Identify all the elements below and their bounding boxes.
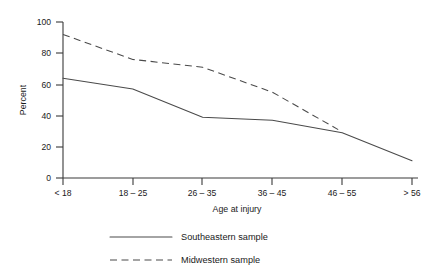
y-tick-label-0: 0 — [46, 173, 51, 183]
legend-label-midwestern: Midwestern sample — [181, 255, 260, 265]
x-tick-label-0: < 18 — [55, 188, 72, 198]
y-tick-label-20: 20 — [41, 142, 51, 152]
x-tick-label-1: 18 – 25 — [119, 188, 148, 198]
series-line-southeastern — [63, 78, 412, 161]
y-axis-title: Percent — [18, 84, 28, 115]
x-tick-label-4: 46 – 55 — [328, 188, 357, 198]
y-tick-label-60: 60 — [41, 80, 51, 90]
series-line-midwestern — [63, 35, 338, 130]
y-tick-label-80: 80 — [41, 48, 51, 58]
x-tick-label-5: > 56 — [404, 188, 421, 198]
y-tick-label-40: 40 — [41, 111, 51, 121]
y-tick-label-100: 100 — [37, 17, 52, 27]
line-chart-svg: 0 20 40 60 80 100 Percent < 18 18 – 25 2… — [0, 0, 441, 276]
legend-label-southeastern: Southeastern sample — [181, 232, 268, 242]
x-axis-title: Age at injury — [213, 204, 262, 214]
chart-figure: 0 20 40 60 80 100 Percent < 18 18 – 25 2… — [0, 0, 441, 276]
x-tick-label-3: 36 – 45 — [258, 188, 287, 198]
x-tick-label-2: 26 – 35 — [188, 188, 217, 198]
